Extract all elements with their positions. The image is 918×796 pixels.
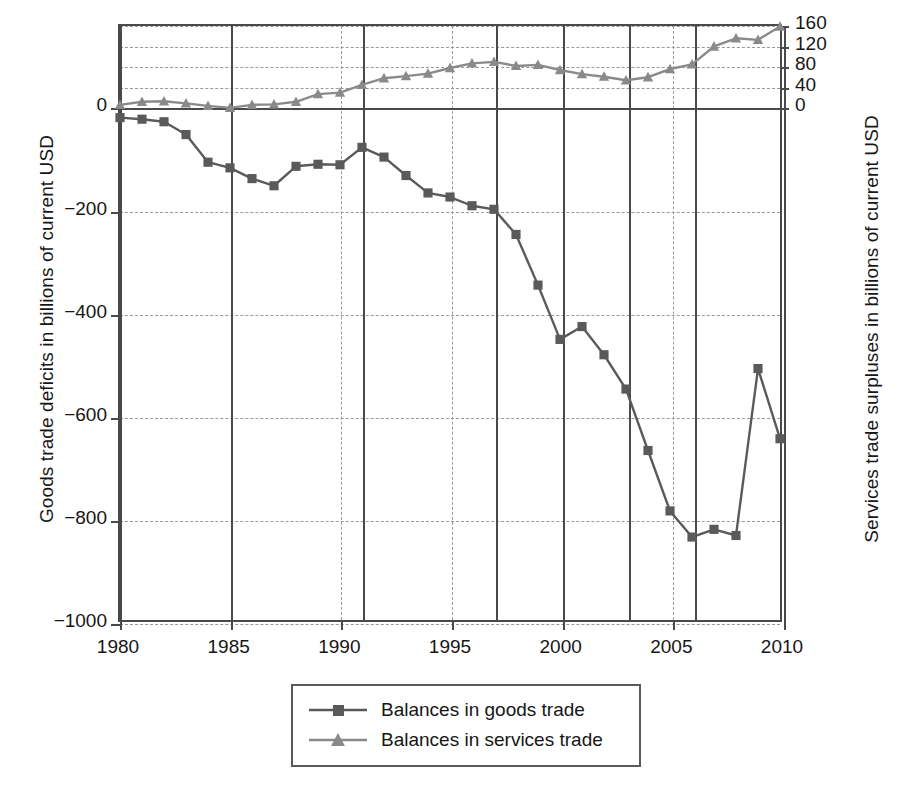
- data-point-square: [709, 525, 718, 534]
- data-point-square: [181, 130, 190, 139]
- data-point-square: [159, 117, 168, 126]
- data-point-square: [401, 171, 410, 180]
- data-point-square: [577, 322, 586, 331]
- x-tick-mark: [563, 620, 565, 630]
- right-tick-mark: [780, 47, 789, 49]
- x-tick-label: 1985: [208, 636, 250, 658]
- data-point-square: [489, 205, 498, 214]
- left-tick-label: −200: [64, 198, 107, 220]
- x-tick-mark: [673, 620, 675, 630]
- square-marker: [307, 699, 369, 721]
- x-tick-mark: [452, 620, 454, 630]
- left-tick-label: 0: [96, 94, 107, 116]
- data-point-square: [753, 364, 762, 373]
- left-tick-label: −600: [64, 404, 107, 426]
- right-tick-mark: [780, 67, 789, 69]
- data-point-square: [225, 163, 234, 172]
- x-tick-mark: [341, 620, 343, 630]
- triangle-marker: [307, 729, 369, 751]
- left-tick-mark: [111, 212, 120, 214]
- left-tick-label: −800: [64, 507, 107, 529]
- data-point-square: [269, 181, 278, 190]
- chart-figure: Goods trade deficits in billions of curr…: [0, 0, 918, 796]
- x-tick-mark: [120, 620, 122, 630]
- data-point-square: [599, 350, 608, 359]
- chart-legend: Balances in goods trade Balances in serv…: [291, 684, 641, 767]
- vertical-marker-line: [784, 26, 786, 620]
- left-tick-mark: [111, 418, 120, 420]
- left-tick-label: −400: [64, 301, 107, 323]
- left-axis-title: Goods trade deficits in billions of curr…: [36, 94, 58, 564]
- data-point-square: [731, 531, 740, 540]
- plot-area: [118, 24, 782, 622]
- series-layer: [120, 26, 780, 620]
- data-point-square: [665, 506, 674, 515]
- data-point-square: [775, 434, 784, 443]
- right-tick-label: 40: [795, 74, 816, 96]
- right-tick-label: 120: [795, 33, 827, 55]
- series-goods: [115, 113, 784, 542]
- x-tick-mark: [231, 620, 233, 630]
- series-services: [115, 21, 785, 112]
- right-tick-mark: [780, 88, 789, 90]
- data-point-square: [445, 192, 454, 201]
- left-tick-mark: [111, 521, 120, 523]
- right-tick-label: 80: [795, 53, 816, 75]
- data-point-square: [291, 162, 300, 171]
- left-tick-label: −1000: [54, 610, 107, 632]
- data-point-square: [203, 158, 212, 167]
- legend-label-goods: Balances in goods trade: [381, 699, 585, 721]
- data-point-square: [643, 446, 652, 455]
- data-point-square: [621, 384, 630, 393]
- x-tick-mark: [784, 620, 786, 630]
- data-point-square: [137, 115, 146, 124]
- x-tick-label: 2010: [761, 636, 803, 658]
- left-tick-mark: [111, 315, 120, 317]
- data-point-square: [423, 188, 432, 197]
- x-tick-label: 1980: [97, 636, 139, 658]
- legend-label-services: Balances in services trade: [381, 729, 603, 751]
- right-tick-label: 160: [795, 12, 827, 34]
- data-point-square: [247, 174, 256, 183]
- data-point-square: [533, 281, 542, 290]
- horizontal-gridline: [120, 624, 780, 625]
- right-tick-mark: [780, 108, 789, 110]
- data-point-square: [335, 160, 344, 169]
- data-point-square: [115, 113, 124, 122]
- left-tick-mark: [111, 624, 120, 626]
- x-tick-label: 1990: [318, 636, 360, 658]
- right-axis-title: Services trade surpluses in billions of …: [861, 94, 883, 564]
- series-line: [120, 118, 780, 537]
- x-tick-label: 2005: [650, 636, 692, 658]
- data-point-square: [687, 532, 696, 541]
- data-point-square: [555, 335, 564, 344]
- legend-item-services: Balances in services trade: [307, 725, 625, 755]
- data-point-square: [357, 143, 366, 152]
- x-tick-label: 1995: [429, 636, 471, 658]
- data-point-square: [511, 230, 520, 239]
- data-point-square: [313, 160, 322, 169]
- legend-item-goods: Balances in goods trade: [307, 695, 625, 725]
- right-tick-label: 0: [795, 94, 806, 116]
- data-point-square: [467, 201, 476, 210]
- data-point-square: [379, 153, 388, 162]
- x-tick-label: 2000: [540, 636, 582, 658]
